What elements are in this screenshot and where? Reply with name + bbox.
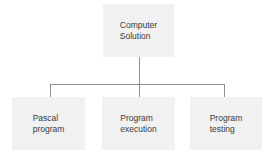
child-node-label: Program execution xyxy=(120,113,156,135)
root-connector xyxy=(139,57,140,85)
child-node-pascal-program: Pascal program xyxy=(12,97,85,150)
child-node-program-execution: Program execution xyxy=(102,97,175,150)
child-node-program-testing: Program testing xyxy=(190,97,262,150)
child-node-label: Program testing xyxy=(210,113,243,135)
root-node-label: Computer Solution xyxy=(120,20,157,42)
drop-connector-right xyxy=(224,84,225,97)
drop-connector-middle xyxy=(139,84,140,97)
drop-connector-left xyxy=(50,84,51,97)
horizontal-connector xyxy=(50,84,225,85)
child-node-label: Pascal program xyxy=(33,113,65,135)
root-node-computer-solution: Computer Solution xyxy=(103,4,174,57)
